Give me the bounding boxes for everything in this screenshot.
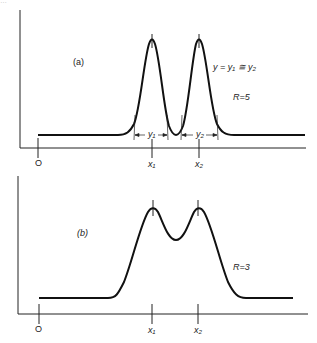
panel-a-width-label-2: y₂ — [195, 129, 205, 139]
panel-a-width-label-1: y₁ — [147, 129, 156, 139]
panel-b-label: (b) — [77, 228, 88, 238]
panel-a-origin-label: O — [35, 158, 42, 168]
panel-a-resolution-label: R=5 — [233, 92, 250, 102]
panel-b-origin-label: O — [35, 324, 42, 334]
panel-a-x2-label: x₂ — [195, 159, 203, 169]
panel-a-x1-label: x₁ — [148, 159, 155, 169]
panel-b-curve — [39, 208, 293, 298]
panel-a-label: (a) — [73, 57, 84, 67]
panel-a-curve — [38, 40, 305, 136]
figure-canvas — [0, 0, 317, 343]
panel-a-equation-label: y = y₁ ≅ y₂ — [213, 62, 256, 72]
panel-b-x1-label: x₁ — [148, 325, 155, 335]
panel-b-axes — [18, 176, 308, 324]
panel-b-x2-label: x₂ — [194, 325, 202, 335]
panel-b-resolution-label: R=3 — [233, 262, 250, 272]
